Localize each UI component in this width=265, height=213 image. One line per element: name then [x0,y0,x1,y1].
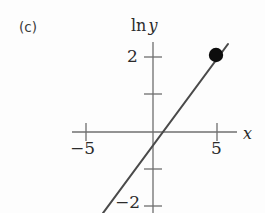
plot-canvas [0,0,265,213]
data-line [103,44,228,213]
data-point-marker [209,48,223,62]
figure-panel: (c) lny x 2 −2 −5 5 [0,0,265,213]
